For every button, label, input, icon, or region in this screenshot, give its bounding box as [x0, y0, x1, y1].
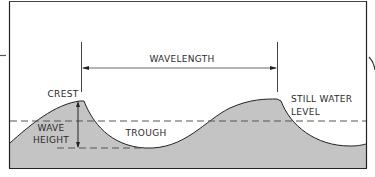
still-water-level-label-line1: STILL WATER	[291, 94, 352, 104]
wave-height-label-line2: HEIGHT	[33, 135, 69, 145]
trough-label: TROUGH	[125, 128, 167, 138]
wavelength-arrowhead-left	[82, 66, 89, 70]
crest-label: CREST	[48, 89, 79, 99]
right-edge-arc	[369, 57, 375, 70]
still-water-level-label-line2: LEVEL	[291, 107, 320, 117]
wavelength-label: WAVELENGTH	[149, 54, 214, 64]
wavelength-arrowhead-right	[270, 66, 277, 70]
wave-diagram: WAVELENGTH CREST WAVE HEIGHT TROUGH STIL…	[0, 0, 375, 177]
wave-height-label-line1: WAVE	[37, 123, 64, 133]
